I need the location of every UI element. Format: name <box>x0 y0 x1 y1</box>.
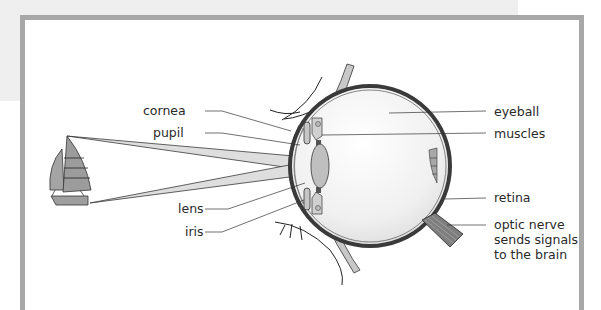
label-cornea: cornea <box>143 103 186 118</box>
lens <box>311 144 329 188</box>
label-iris: iris <box>185 224 204 239</box>
sailboat-icon <box>50 136 91 205</box>
label-pupil: pupil <box>153 125 184 140</box>
label-retina: retina <box>494 190 531 205</box>
label-lens: lens <box>178 201 204 216</box>
label-muscles: muscles <box>494 126 545 141</box>
label-optic-nerve: optic nerve sends signals to the brain <box>494 217 578 262</box>
optic-nerve <box>422 213 463 247</box>
label-eyeball: eyeball <box>494 104 539 119</box>
